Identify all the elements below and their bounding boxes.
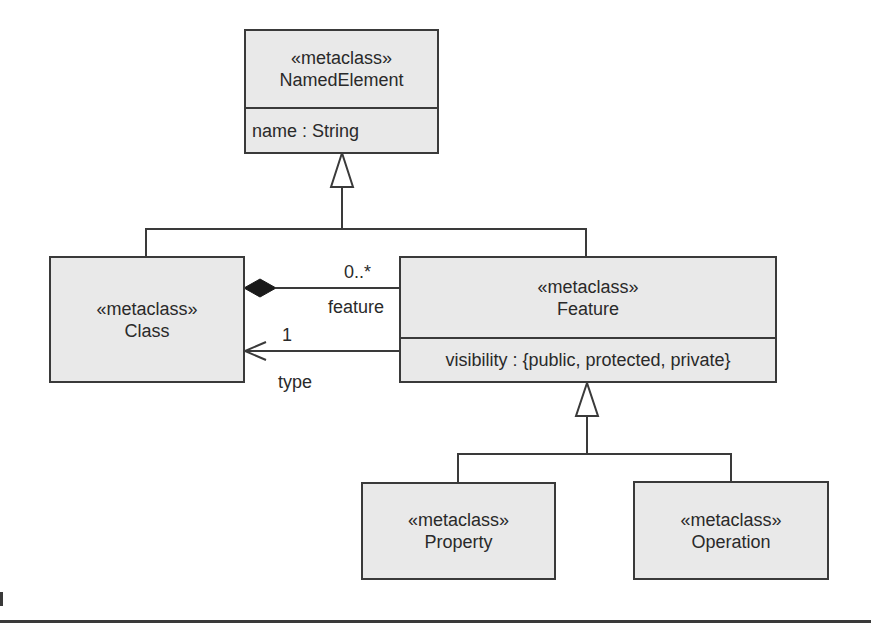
named-element-stereotype: «metaclass» bbox=[291, 47, 392, 69]
named-element-name: NamedElement bbox=[279, 69, 403, 91]
named-element-attributes: name : String bbox=[246, 107, 437, 152]
named-element-attribute: name : String bbox=[252, 120, 359, 142]
operation-stereotype: «metaclass» bbox=[680, 509, 781, 531]
generalization-branch-class-feature bbox=[146, 229, 586, 257]
property-header: «metaclass» Property bbox=[363, 484, 554, 578]
class-box-class[interactable]: «metaclass» Class bbox=[49, 256, 245, 383]
operation-header: «metaclass» Operation bbox=[635, 483, 827, 578]
type-role-label: type bbox=[278, 372, 312, 392]
class-box-property[interactable]: «metaclass» Property bbox=[361, 482, 556, 580]
class-header: «metaclass» Class bbox=[51, 258, 243, 381]
class-stereotype: «metaclass» bbox=[96, 298, 197, 320]
feature-header: «metaclass» Feature bbox=[401, 258, 775, 337]
feature-stereotype: «metaclass» bbox=[537, 276, 638, 298]
class-name: Class bbox=[124, 320, 169, 342]
composition-role-label: feature bbox=[328, 297, 384, 317]
generalization-arrowhead-named-element bbox=[331, 153, 353, 187]
feature-name: Feature bbox=[557, 298, 619, 320]
class-box-named-element[interactable]: «metaclass» NamedElement name : String bbox=[244, 29, 439, 154]
type-multiplicity-label: 1 bbox=[282, 325, 292, 345]
named-element-header: «metaclass» NamedElement bbox=[246, 31, 437, 107]
generalization-branch-property-operation bbox=[458, 454, 731, 483]
feature-attribute: visibility : {public, protected, private… bbox=[445, 349, 730, 371]
class-box-feature[interactable]: «metaclass» Feature visibility : {public… bbox=[399, 256, 777, 383]
composition-diamond-icon bbox=[244, 279, 276, 297]
operation-name: Operation bbox=[691, 531, 770, 553]
generalization-arrowhead-feature bbox=[576, 383, 598, 416]
class-box-operation[interactable]: «metaclass» Operation bbox=[633, 481, 829, 580]
composition-multiplicity-label: 0..* bbox=[344, 262, 371, 282]
page-edge-mark bbox=[0, 592, 3, 606]
property-name: Property bbox=[424, 531, 492, 553]
property-stereotype: «metaclass» bbox=[408, 509, 509, 531]
feature-attributes: visibility : {public, protected, private… bbox=[401, 337, 775, 381]
